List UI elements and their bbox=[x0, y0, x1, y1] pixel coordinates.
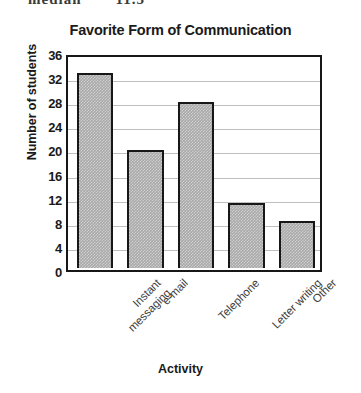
x-axis-tick-label: Instant messaging bbox=[115, 276, 174, 335]
y-axis-tick-label: 8 bbox=[55, 216, 62, 231]
y-axis-tick-label: 20 bbox=[48, 144, 62, 159]
y-axis-tick-label: 12 bbox=[48, 192, 62, 207]
plot-area bbox=[66, 55, 322, 272]
y-axis-tick-label: 0 bbox=[55, 265, 62, 280]
y-axis-tick-label: 16 bbox=[48, 168, 62, 183]
y-axis-tick-label: 24 bbox=[48, 120, 62, 135]
chart-title: Favorite Form of Communication bbox=[0, 22, 361, 38]
x-axis-tick-label: Telephone bbox=[215, 276, 262, 323]
cropped-text-fragment: median11.5 bbox=[28, 0, 328, 11]
bar bbox=[228, 203, 264, 268]
x-axis-tick-label: e-mail bbox=[159, 276, 191, 308]
x-axis-tick-labels: Instant messaginge-mailTelephoneLetter w… bbox=[66, 272, 322, 362]
y-axis-tick-label: 28 bbox=[48, 96, 62, 111]
x-axis-label: Activity bbox=[0, 362, 361, 376]
bar-series bbox=[70, 59, 318, 268]
y-axis-tick-label: 36 bbox=[48, 48, 62, 63]
bar bbox=[178, 102, 214, 268]
y-axis-tick-label: 32 bbox=[48, 72, 62, 87]
y-axis-tick-labels: 04812162024283236 bbox=[28, 55, 62, 272]
bar bbox=[77, 73, 113, 268]
cropped-text-word-1: median bbox=[28, 0, 82, 7]
bar bbox=[279, 221, 315, 268]
cropped-text-word-2: 11.5 bbox=[116, 0, 145, 7]
y-axis-tick-label: 4 bbox=[55, 240, 62, 255]
bar bbox=[127, 150, 163, 268]
